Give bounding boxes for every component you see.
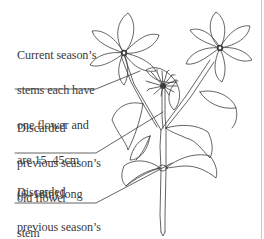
page-border — [261, 0, 262, 239]
label-line: Discarded — [17, 123, 101, 135]
label-line: Discarded — [17, 187, 101, 199]
flower-right — [186, 12, 252, 82]
label-line: previous season’s — [17, 222, 101, 234]
label-line: stems each have — [17, 85, 96, 97]
label-old-leaves: Discarded previous season’s leaves — [17, 164, 101, 239]
label-line: Current season’s — [17, 50, 96, 62]
leaves — [112, 68, 237, 186]
plant-diagram: Current season’s stems each have one flo… — [0, 0, 264, 239]
